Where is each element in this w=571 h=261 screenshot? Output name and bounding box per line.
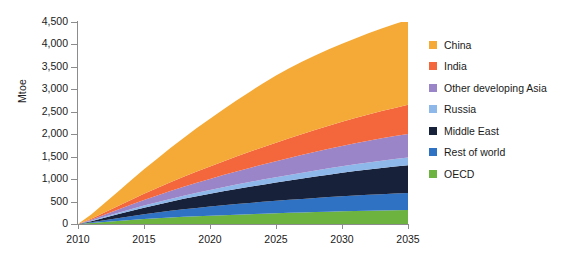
legend-swatch-icon [429,105,437,113]
x-axis-tick [408,224,409,229]
legend-item-label: China [444,39,471,51]
y-axis-tick-label: 1,000 [28,173,68,184]
x-axis-tick-label: 2030 [318,233,366,245]
legend-item-label: Other developing Asia [444,82,547,94]
y-axis-tick-label: 500 [28,196,68,207]
legend-item-russia[interactable]: Russia [429,99,569,121]
y-axis-tick [71,44,77,45]
legend-swatch-icon [429,148,437,156]
x-axis-tick-label: 2035 [384,233,432,245]
plot-clip [78,22,408,224]
legend-item-other-developing-asia[interactable]: Other developing Asia [429,77,569,99]
legend-item-rest-of-world[interactable]: Rest of world [429,142,569,164]
x-axis-tick [78,224,79,229]
y-axis-tick-label: 2,000 [28,128,68,139]
y-axis-tick-label: 0 [28,218,68,229]
y-axis-tick-label: 3,500 [28,61,68,72]
y-axis-tick-label: 4,000 [28,38,68,49]
chart-legend: ChinaIndiaOther developing AsiaRussiaMid… [429,34,569,185]
x-axis-tick [210,224,211,229]
legend-item-middle-east[interactable]: Middle East [429,120,569,142]
x-axis-tick-label: 2015 [120,233,168,245]
legend-item-label: Russia [444,103,476,115]
y-axis-tick [71,112,77,113]
x-axis-line [77,224,409,225]
x-axis-tick-label: 2020 [186,233,234,245]
legend-item-label: OECD [444,168,474,180]
x-axis-tick-label: 2025 [252,233,300,245]
y-axis-tick-labels: 05001,0001,5002,0002,5003,0003,5004,0004… [24,0,68,261]
legend-swatch-icon [429,62,437,70]
legend-item-label: Rest of world [444,146,505,158]
legend-item-label: Middle East [444,125,499,137]
legend-item-china[interactable]: China [429,34,569,56]
y-axis-tick [71,179,77,180]
y-axis-tick [71,157,77,158]
plot-area [78,22,408,224]
y-axis-tick [71,134,77,135]
legend-item-india[interactable]: India [429,56,569,78]
x-axis-tick [276,224,277,229]
y-axis-tick-label: 4,500 [28,16,68,27]
x-axis-tick-label: 2010 [54,233,102,245]
y-axis-tick [71,89,77,90]
y-axis-tick-label: 3,000 [28,83,68,94]
x-axis-tick [342,224,343,229]
legend-swatch-icon [429,170,437,178]
chart-figure: Mtoe 05001,0001,5002,0002,5003,0003,5004… [0,0,571,261]
legend-item-oecd[interactable]: OECD [429,163,569,185]
y-axis-tick [71,224,77,225]
x-axis-tick [144,224,145,229]
stacked-area-series [78,22,408,224]
legend-swatch-icon [429,127,437,135]
y-axis-tick [71,22,77,23]
y-axis-tick-label: 1,500 [28,151,68,162]
y-axis-tick-label: 2,500 [28,106,68,117]
legend-swatch-icon [429,41,437,49]
y-axis-tick [71,202,77,203]
y-axis-tick [71,67,77,68]
legend-item-label: India [444,60,467,72]
legend-swatch-icon [429,84,437,92]
